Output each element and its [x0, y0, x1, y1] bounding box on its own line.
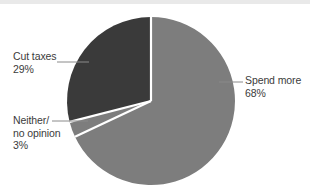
pie-label-cut-taxes: Cut taxes 29%: [13, 50, 56, 75]
pie-label-cut-taxes-value: 29%: [13, 63, 56, 76]
pie-label-neither-name-line1: Neither/: [13, 114, 60, 127]
pie-label-cut-taxes-name: Cut taxes: [13, 50, 56, 63]
pie-label-neither-name-line2: no opinion: [13, 127, 60, 140]
pie-label-spend-more-name: Spend more: [245, 74, 301, 87]
pie-chart-figure: Cut taxes 29% Neither/ no opinion 3% Spe…: [0, 0, 310, 196]
pie-label-neither-no-opinion: Neither/ no opinion 3%: [13, 114, 60, 152]
pie-label-spend-more-value: 68%: [245, 87, 301, 100]
pie-label-spend-more: Spend more 68%: [245, 74, 301, 99]
pie-label-neither-value: 3%: [13, 139, 60, 152]
